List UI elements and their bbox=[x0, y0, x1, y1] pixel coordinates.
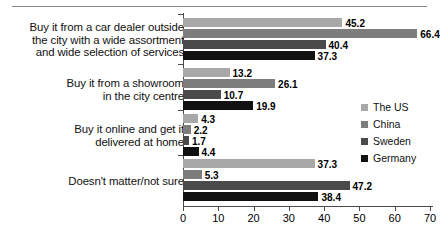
bar bbox=[183, 136, 189, 145]
x-tick-label: 10 bbox=[203, 212, 233, 225]
bar-value-label: 45.2 bbox=[345, 19, 364, 29]
category-label-line: Buy it from a car dealer outside bbox=[4, 21, 184, 34]
bar bbox=[183, 90, 221, 99]
bar-value-label: 38.4 bbox=[321, 193, 340, 203]
category-label: Doesn't matter/not sure bbox=[4, 175, 184, 188]
bar bbox=[183, 159, 315, 168]
bar-value-label: 26.1 bbox=[278, 80, 297, 90]
bar bbox=[183, 114, 198, 123]
bar bbox=[183, 147, 199, 156]
bar-value-label: 19.9 bbox=[256, 102, 275, 112]
category-label: Buy it from a showroomin the city centre bbox=[4, 77, 184, 103]
legend-label: Sweden bbox=[373, 136, 411, 147]
x-tick bbox=[430, 207, 431, 211]
bar bbox=[183, 29, 417, 38]
x-tick bbox=[395, 207, 396, 211]
bar-value-label: 47.2 bbox=[353, 182, 372, 192]
y-tick bbox=[178, 64, 183, 65]
legend-item[interactable]: Germany bbox=[361, 150, 416, 167]
legend-swatch-icon bbox=[361, 155, 368, 162]
legend-item[interactable]: The US bbox=[361, 99, 416, 116]
x-tick bbox=[289, 207, 290, 211]
x-tick-label: 0 bbox=[168, 212, 198, 225]
category-label-line: in the city centre bbox=[4, 90, 184, 103]
bar-value-label: 13.2 bbox=[233, 69, 252, 79]
legend-swatch-icon bbox=[361, 138, 368, 145]
bar-value-label: 10.7 bbox=[224, 91, 243, 101]
bar bbox=[183, 192, 318, 201]
bar-value-label: 4.3 bbox=[201, 115, 215, 125]
x-tick bbox=[359, 207, 360, 211]
bar bbox=[183, 125, 191, 134]
legend-item[interactable]: China bbox=[361, 116, 416, 133]
category-label-line: delivered at home bbox=[4, 136, 184, 149]
bar-value-label: 40.4 bbox=[329, 41, 348, 51]
legend: The USChinaSwedenGermany bbox=[361, 99, 416, 167]
x-tick bbox=[183, 207, 184, 211]
bar-value-label: 37.3 bbox=[318, 52, 337, 62]
legend-swatch-icon bbox=[361, 121, 368, 128]
x-tick-label: 40 bbox=[309, 212, 339, 225]
x-tick-label: 60 bbox=[380, 212, 410, 225]
category-label: Buy it online and get itdelivered at hom… bbox=[4, 123, 184, 149]
bar bbox=[183, 170, 202, 179]
bar bbox=[183, 181, 350, 190]
category-label-line: the city with a wide assortment bbox=[4, 34, 184, 47]
legend-label: The US bbox=[373, 102, 409, 113]
x-tick bbox=[324, 207, 325, 211]
bar bbox=[183, 101, 253, 110]
legend-label: Germany bbox=[373, 153, 416, 164]
bar-value-label: 4.4 bbox=[202, 148, 216, 158]
x-tick bbox=[254, 207, 255, 211]
x-tick-label: 30 bbox=[274, 212, 304, 225]
category-label-line: Buy it online and get it bbox=[4, 123, 184, 136]
bar-value-label: 1.7 bbox=[192, 137, 206, 147]
bar-value-label: 5.3 bbox=[205, 171, 219, 181]
legend-item[interactable]: Sweden bbox=[361, 133, 416, 150]
bar-value-label: 2.2 bbox=[194, 126, 208, 136]
category-label-line: Doesn't matter/not sure bbox=[4, 175, 184, 188]
x-tick-label: 20 bbox=[239, 212, 269, 225]
bar bbox=[183, 79, 275, 88]
y-tick bbox=[178, 110, 183, 111]
category-label: Buy it from a car dealer outsidethe city… bbox=[4, 21, 184, 59]
legend-swatch-icon bbox=[361, 104, 368, 111]
bar bbox=[183, 51, 315, 60]
x-tick-label: 50 bbox=[344, 212, 374, 225]
bar bbox=[183, 68, 230, 77]
x-tick bbox=[218, 207, 219, 211]
bar-value-label: 66.4 bbox=[420, 30, 439, 40]
legend-label: China bbox=[373, 119, 400, 130]
bar-value-label: 37.3 bbox=[318, 160, 337, 170]
bar bbox=[183, 18, 342, 27]
y-tick bbox=[178, 14, 183, 15]
category-label-line: Buy it from a showroom bbox=[4, 77, 184, 90]
category-label-line: and wide selection of services bbox=[4, 46, 184, 59]
top-divider bbox=[12, 6, 427, 7]
x-tick-label: 70 bbox=[415, 212, 445, 225]
bar bbox=[183, 40, 326, 49]
